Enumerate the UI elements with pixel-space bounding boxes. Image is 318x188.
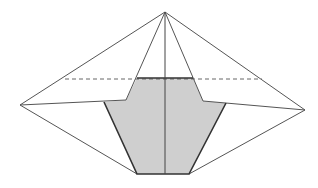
- geometric-diagram: [0, 0, 318, 188]
